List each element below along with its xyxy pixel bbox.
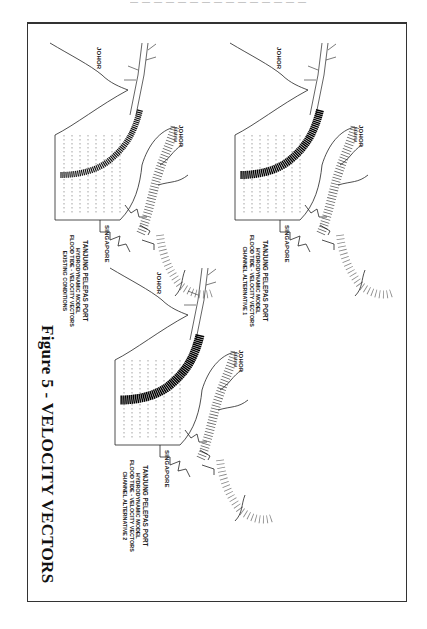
panel-title-line: HYDRODYNAMIC MODEL [75,235,82,327]
label-malaysia: MALAYSIA [353,127,357,142]
label-johor-west: JOHOR [276,47,282,69]
label-malaysia: MALAYSIA [233,352,237,367]
label-singapore: SINGAPORE [104,225,110,263]
label-johor-north: JOHOR [238,350,244,372]
panel-title-line: FLOOD TIDE - VELOCITY VECTORS [128,460,135,552]
panel-title-alternative-2: TANJUNG PELEPAS PORT HYDRODYNAMIC MODEL … [122,460,148,552]
label-singapore: SINGAPORE [164,450,170,488]
panel-title-line: EXISTING CONDITIONS [62,235,69,327]
figure-landscape-canvas: JOHOR JOHOR MALAYSIA SINGAPORE TANJUNG P… [29,25,405,603]
figure-frame: JOHOR JOHOR MALAYSIA SINGAPORE TANJUNG P… [27,22,407,602]
label-johor-north: JOHOR [358,125,364,147]
panel-title-existing: TANJUNG PELEPAS PORT HYDRODYNAMIC MODEL … [62,235,88,327]
figure-caption: Figure 5 - VELOCITY VECTORS [37,325,57,583]
panel-title-line: HYDRODYNAMIC MODEL [135,460,142,552]
map-panel-alternative-2: JOHOR JOHOR MALAYSIA SINGAPORE TANJUNG P… [100,260,280,530]
label-singapore: SINGAPORE [284,225,290,263]
panel-title-line: TANJUNG PELEPAS PORT [141,460,148,552]
label-johor-north: JOHOR [178,125,184,147]
label-johor-west: JOHOR [96,47,102,69]
panel-title-line: TANJUNG PELEPAS PORT [81,235,88,327]
label-malaysia: MALAYSIA [173,127,177,142]
label-johor-west: JOHOR [156,272,162,294]
running-head: — — — — — — — — — — — — — — — [130,0,310,6]
panel-title-line: CHANNEL ALTERNATIVE 2 [122,460,129,552]
panel-title-line: FLOOD TIDE - VELOCITY VECTORS [68,235,75,327]
